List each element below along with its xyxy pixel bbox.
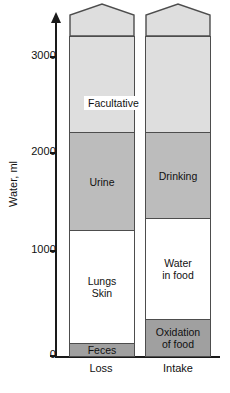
water-balance-stacked-bar-chart: Water, ml 3000 2000 1000 0 Loss Intake U… xyxy=(0,0,230,393)
bar-loss-segment-lungs-skin-label: LungsSkin xyxy=(88,275,117,299)
y-tick-0: 0 xyxy=(0,355,56,357)
bar-loss-segment-facultative xyxy=(69,36,135,133)
bar-intake-segment-oxidation-of-food: Oxidationof food xyxy=(145,319,211,357)
y-tick-1000: 1000 xyxy=(0,250,56,252)
bar-intake: Drinking Waterin food Oxidationof food xyxy=(145,36,211,357)
y-axis-line xyxy=(55,22,57,358)
y-tick-label: 2000 xyxy=(12,146,56,157)
x-axis-label-loss: Loss xyxy=(66,362,136,374)
bar-intake-segment-oxidation-of-food-label: Oxidationof food xyxy=(156,326,200,350)
y-tick-label: 3000 xyxy=(12,50,56,61)
bar-intake-segment-drinking-label: Drinking xyxy=(159,170,198,182)
bar-loss-segment-urine-label: Urine xyxy=(89,176,114,188)
y-axis-title: Water, ml xyxy=(7,149,19,219)
bar-loss-segment-feces: Feces xyxy=(69,343,135,357)
y-tick-label: 1000 xyxy=(12,244,56,255)
bar-loss: Urine LungsSkin Feces xyxy=(69,36,135,357)
bar-loss-segment-lungs-skin: LungsSkin xyxy=(69,230,135,344)
bar-intake-pointed-cap xyxy=(145,3,211,37)
bar-loss-segment-feces-label: Feces xyxy=(88,344,117,356)
y-tick-label: 0 xyxy=(12,349,56,360)
y-tick-2000: 2000 xyxy=(0,152,56,154)
y-tick-3000: 3000 xyxy=(0,56,56,58)
x-axis-label-intake: Intake xyxy=(143,362,213,374)
bar-intake-segment-drinking: Drinking xyxy=(145,132,211,219)
bar-intake-segment-facultative xyxy=(145,36,211,133)
bar-intake-segment-water-in-food-label: Waterin food xyxy=(162,257,194,281)
bar-intake-segment-water-in-food: Waterin food xyxy=(145,218,211,320)
annotation-facultative: Facultative xyxy=(84,96,143,110)
bar-loss-segment-urine: Urine xyxy=(69,132,135,231)
bar-loss-pointed-cap xyxy=(69,3,135,37)
